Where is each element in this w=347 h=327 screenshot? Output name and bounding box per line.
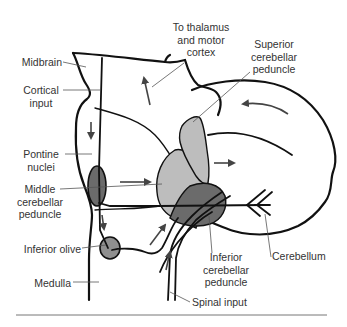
- label-cortical-input-line1: Cortical: [18, 84, 64, 97]
- label-middle-cerebellar-peduncle: Middle cerebellar peduncle: [14, 183, 66, 221]
- label-middle-peduncle-line1: Middle: [14, 183, 66, 196]
- label-superior-peduncle-line3: peduncle: [246, 63, 302, 76]
- label-midbrain: Midbrain: [18, 56, 62, 69]
- label-pontine-nuclei-line2: nuclei: [18, 161, 64, 174]
- label-to-thalamus-line1: To thalamus: [168, 21, 234, 34]
- label-middle-peduncle-line2: cerebellar: [14, 196, 66, 209]
- label-to-thalamus-line3: cortex: [168, 46, 234, 59]
- label-to-thalamus: To thalamus and motor cortex: [168, 21, 234, 59]
- label-pontine-nuclei: Pontine nuclei: [18, 148, 64, 173]
- pontine-nuclei-shape: [88, 166, 106, 206]
- label-inferior-peduncle-line2: cerebellar: [198, 264, 254, 277]
- label-superior-cerebellar-peduncle: Superior cerebellar peduncle: [246, 38, 302, 76]
- label-middle-peduncle-line3: peduncle: [14, 208, 66, 221]
- label-pontine-nuclei-line1: Pontine: [18, 148, 64, 161]
- label-cerebellum: Cerebellum: [272, 250, 326, 263]
- label-inferior-peduncle-line3: peduncle: [198, 276, 254, 289]
- label-inferior-peduncle-line1: Inferior: [198, 251, 254, 264]
- inferior-olive-shape: [100, 237, 120, 259]
- label-superior-peduncle-line2: cerebellar: [246, 51, 302, 64]
- label-spinal-input: Spinal input: [192, 296, 247, 309]
- label-superior-peduncle-line1: Superior: [246, 38, 302, 51]
- label-to-thalamus-line2: and motor: [168, 34, 234, 47]
- label-cortical-input-line2: input: [18, 97, 64, 110]
- label-inferior-olive: Inferior olive: [4, 243, 81, 256]
- cerebellum-pathway-diagram: Midbrain Cortical input Pontine nuclei M…: [0, 0, 347, 327]
- label-inferior-cerebellar-peduncle: Inferior cerebellar peduncle: [198, 251, 254, 289]
- label-medulla: Medulla: [14, 277, 71, 290]
- label-cortical-input: Cortical input: [18, 84, 64, 109]
